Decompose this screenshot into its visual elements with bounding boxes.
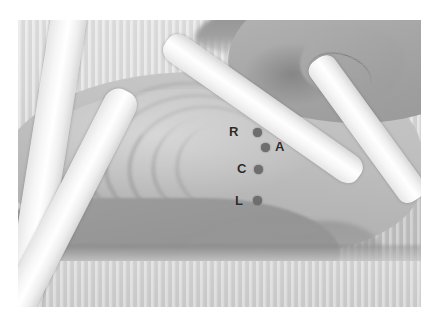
electrode-l-label: L (235, 194, 243, 207)
electrode-l-marker (253, 196, 262, 205)
electrode-c-label: C (237, 162, 246, 175)
clinical-photograph: RACL (18, 20, 421, 307)
electrode-a-marker (261, 143, 270, 152)
electrode-c-marker (254, 165, 263, 174)
electrode-a-label: A (275, 140, 284, 153)
electrode-r-marker (253, 128, 262, 137)
electrode-r-label: R (229, 125, 238, 138)
bedsheet-lower (18, 261, 421, 307)
screenshot-root: RACL (0, 0, 439, 328)
